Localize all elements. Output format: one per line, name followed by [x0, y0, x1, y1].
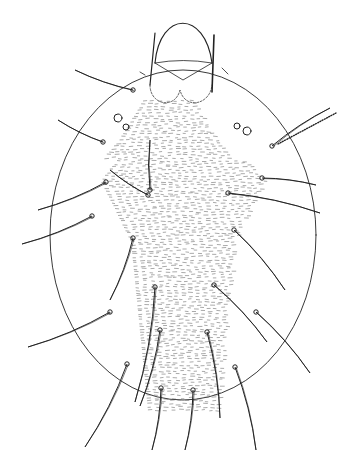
- seta: [228, 193, 320, 213]
- seta: [85, 364, 127, 447]
- gnathosoma: [155, 23, 212, 63]
- seta: [22, 216, 92, 244]
- seta: [110, 238, 133, 300]
- eye-left: [114, 114, 122, 122]
- mite-illustration: Line drawing of a mite, dorsal view, ova…: [0, 0, 344, 465]
- seta: [256, 312, 310, 373]
- seta: [58, 120, 103, 142]
- seta: [214, 285, 267, 342]
- seta: [234, 230, 285, 290]
- seta: [135, 287, 155, 402]
- seta: [38, 182, 106, 210]
- seta: [185, 390, 193, 450]
- seta: [207, 332, 220, 418]
- mite-drawing: [0, 0, 344, 465]
- eye-right: [234, 123, 240, 129]
- seta: [235, 367, 256, 450]
- seta: [28, 312, 110, 347]
